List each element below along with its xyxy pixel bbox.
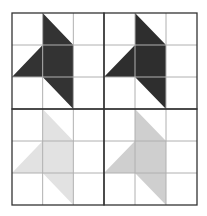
star-bottom-left bbox=[12, 109, 104, 205]
block-borders bbox=[12, 13, 197, 205]
star-bottom-right bbox=[104, 109, 197, 205]
star-top-right bbox=[104, 13, 197, 109]
star-top-left bbox=[12, 13, 104, 109]
quilt-star-diagram bbox=[0, 0, 207, 216]
